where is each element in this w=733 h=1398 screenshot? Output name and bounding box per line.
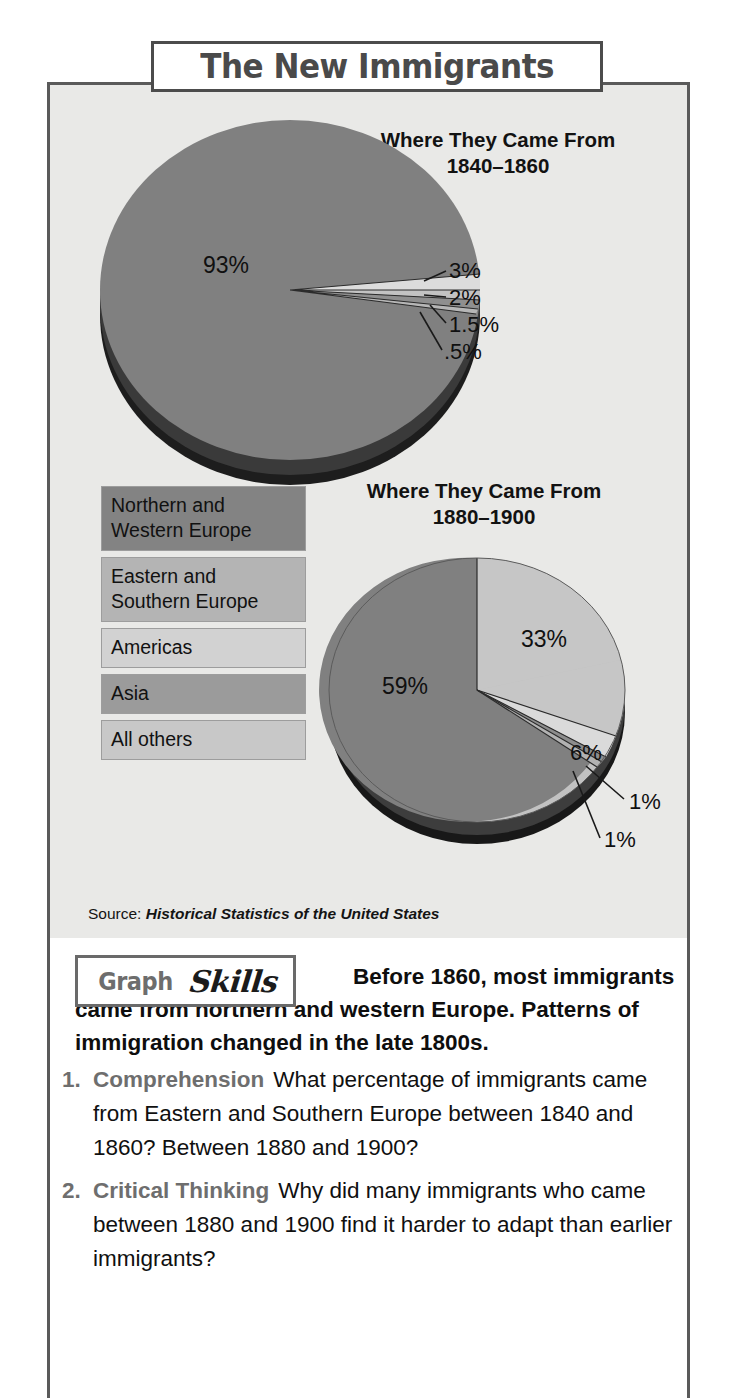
question-2-kind: Critical Thinking [93,1178,269,1203]
pie1-label-93: 93% [203,252,249,279]
pie1-label-2: 2% [449,285,481,311]
question-1-number: 1. [62,1063,93,1165]
page-root: The New Immigrants Where They Came From … [0,0,733,1398]
chart-title-banner: The New Immigrants [151,41,603,92]
graph-skills-word-skills: Skills [188,964,279,999]
question-2-body: Critical ThinkingWhy did many immigrants… [93,1174,682,1276]
source-title: Historical Statistics of the United Stat… [146,905,440,922]
legend-item-eastern-southern-europe: Eastern andSouthern Europe [101,557,306,622]
question-1: 1. ComprehensionWhat percentage of immig… [62,1063,682,1165]
pie1-heading: Where They Came From 1840–1860 [352,127,644,179]
question-2: 2. Critical ThinkingWhy did many immigra… [62,1174,682,1276]
pie1-label-3: 3% [449,258,481,284]
graph-skills-badge: Graph Skills [75,955,296,1007]
source-prefix: Source: [88,905,146,922]
pie1-heading-line1: Where They Came From [352,127,644,153]
legend-item-northern-western-europe: Northern andWestern Europe [101,486,306,551]
question-2-number: 2. [62,1174,93,1276]
pie2-label-1-b: 1% [604,827,636,853]
chart-legend: Northern andWestern Europe Eastern andSo… [101,486,306,766]
source-line: Source: Historical Statistics of the Uni… [88,905,439,923]
pie2-label-59: 59% [382,673,428,700]
legend-label-northern-western-europe: Northern andWestern Europe [111,494,252,541]
pie1-heading-years: 1840–1860 [352,153,644,179]
chart-title: The New Immigrants [200,47,554,86]
pie2-label-33: 33% [521,626,567,653]
pie2-heading: Where They Came From 1880–1900 [338,478,630,530]
questions-list: 1. ComprehensionWhat percentage of immig… [62,1063,682,1285]
pie2-heading-years: 1880–1900 [338,504,630,530]
pie2-label-6: 6% [570,740,602,766]
question-1-kind: Comprehension [93,1067,264,1092]
legend-item-all-others: All others [101,720,306,760]
legend-label-all-others: All others [111,728,192,750]
legend-item-asia: Asia [101,674,306,714]
legend-label-americas: Americas [111,636,192,658]
pie2-label-1-a: 1% [629,789,661,815]
pie1-label-1-5: 1.5% [449,312,499,338]
pie2-heading-line1: Where They Came From [338,478,630,504]
legend-label-asia: Asia [111,682,149,704]
question-1-body: ComprehensionWhat percentage of immigran… [93,1063,682,1165]
legend-label-eastern-southern-europe: Eastern andSouthern Europe [111,565,258,612]
legend-item-americas: Americas [101,628,306,668]
pie1-label-0-5: .5% [444,339,482,365]
graph-skills-word-graph: Graph [98,967,173,996]
